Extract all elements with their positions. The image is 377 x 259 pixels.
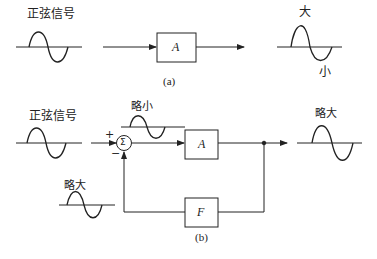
output-label-b: 略大	[315, 108, 337, 120]
feedback-signal-label: 略大	[64, 180, 86, 192]
input-sine-wave-b	[16, 128, 82, 158]
caption-b: (b)	[195, 232, 208, 243]
caption-a: (a)	[163, 76, 175, 87]
block-a-label-b: A	[198, 138, 205, 150]
error-sine-wave	[121, 116, 185, 139]
output-trough-label: 小	[319, 66, 331, 78]
block-f-label: F	[197, 206, 204, 218]
sigma-symbol: Σ	[120, 138, 126, 147]
input-label-b: 正弦信号	[29, 110, 77, 122]
output-sine-wave-b	[297, 126, 362, 161]
feedback-sine-wave	[59, 192, 115, 218]
diagram-graphics	[0, 0, 377, 259]
error-signal-label: 略小	[131, 101, 153, 113]
feedback-diagram: 正弦信号 A 大 小 (a) 正弦信号 略小 + − Σ A F 略大 略大 (…	[0, 0, 377, 259]
input-label-a: 正弦信号	[27, 8, 75, 20]
output-distorted-wave-a	[277, 26, 342, 61]
block-a-label: A	[172, 41, 179, 53]
minus-sign: −	[111, 148, 120, 160]
input-sine-wave-a	[16, 32, 82, 62]
output-peak-label: 大	[299, 6, 311, 18]
feedback-line-right	[218, 143, 264, 212]
plus-sign: +	[105, 129, 114, 141]
